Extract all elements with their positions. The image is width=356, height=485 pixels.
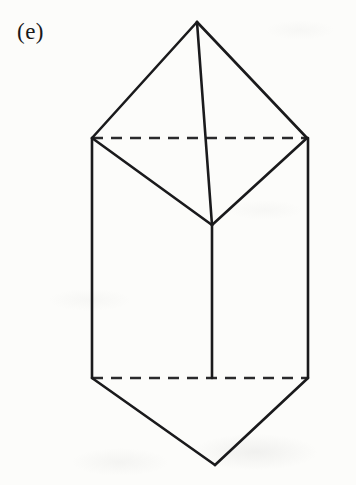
left-rim-to-front-rim-edge	[92, 138, 212, 225]
right-base-to-bottom-apex-edge	[215, 378, 308, 465]
panel-label: (e)	[17, 18, 44, 46]
left-base-to-bottom-apex-edge	[92, 378, 215, 465]
hidden-edges-group	[92, 138, 308, 378]
bottom-pyramid-point-group	[92, 378, 308, 465]
apex-to-left-rim-edge	[92, 22, 197, 138]
apex-to-right-rim-edge	[197, 22, 307, 138]
prism-body-group	[92, 138, 308, 378]
geometric-figure-drawing	[0, 0, 356, 485]
figure-panel: (e)	[0, 0, 356, 485]
right-rim-to-front-rim-edge	[212, 138, 307, 225]
top-pyramid-cap-group	[92, 22, 307, 225]
apex-to-front-rim-edge	[197, 22, 212, 225]
